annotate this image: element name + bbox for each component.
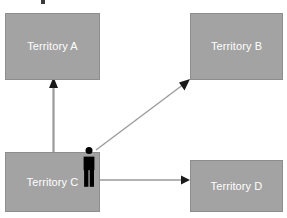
territory-node-b[interactable]: Territory B: [190, 13, 283, 80]
territory-node-a[interactable]: Territory A: [5, 13, 100, 80]
diagram-canvas: Territory A Territory B Territory C Terr…: [0, 0, 287, 218]
arrow-c-to-d: [96, 176, 190, 185]
territory-node-d[interactable]: Territory D: [190, 160, 283, 212]
arrow-c-to-a: [49, 77, 58, 152]
arrow-c-to-b: [96, 79, 190, 150]
territory-label-c: Territory C: [27, 176, 79, 189]
territory-label-d: Territory D: [211, 180, 263, 193]
territory-label-a: Territory A: [27, 40, 78, 53]
territory-label-b: Territory B: [211, 40, 262, 53]
person-figure-icon[interactable]: [81, 146, 97, 188]
